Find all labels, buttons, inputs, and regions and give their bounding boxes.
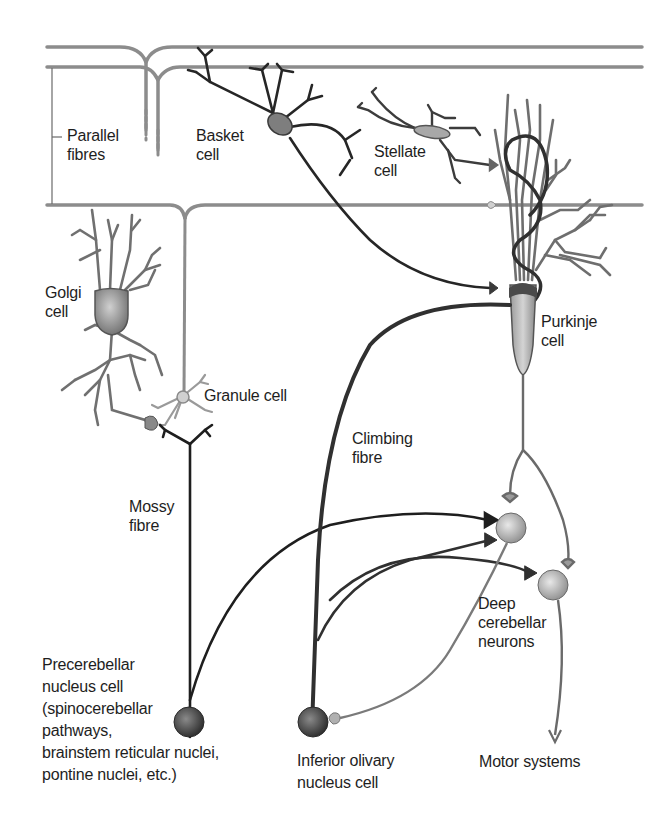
label-basket-cell: Basket cell [196, 126, 244, 164]
granule-axon [184, 218, 185, 395]
label-golgi-cell: Golgi cell [45, 283, 81, 321]
label-inferior-olivary-nucleus-cell: Inferior olivary nucleus cell [297, 750, 394, 794]
parallel-fibres-bracket [52, 68, 62, 204]
label-precerebellar-nucleus-cell: Precerebellar nucleus cell (spinocerebel… [42, 654, 219, 786]
label-climbing-fibre: Climbing fibre [352, 429, 413, 467]
label-granule-cell: Granule cell [204, 386, 287, 405]
golgi-soma [95, 289, 158, 431]
label-mossy-fibre: Mossy fibre [129, 497, 174, 535]
purkinje-soma [509, 283, 537, 375]
label-deep-cerebellar-neurons: Deep cerebellar neurons [478, 594, 546, 651]
basket-cell [188, 48, 498, 294]
label-parallel-fibres: Parallel fibres [67, 126, 119, 164]
inferior-olivary-soma [298, 707, 328, 737]
granule-cell [152, 375, 212, 425]
label-stellate-cell: Stellate cell [374, 142, 426, 180]
parallel-fibres [47, 47, 642, 218]
label-motor-systems: Motor systems [479, 752, 580, 771]
label-purkinje-cell: Purkinje cell [541, 312, 597, 350]
stellate-terminal [487, 202, 496, 209]
